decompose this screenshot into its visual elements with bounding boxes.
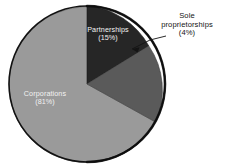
- slice-label-corporations-percent: (81%): [14, 98, 76, 106]
- slice-label-corporations: Corporations (81%): [14, 90, 76, 106]
- slice-label-sole-proprietorships: Sole proprietorships (4%): [152, 12, 222, 38]
- slice-label-sole-percent: (4%): [152, 29, 222, 38]
- slice-label-partnerships-percent: (15%): [78, 34, 138, 42]
- pie-chart: Partnerships (15%) Corporations (81%) So…: [0, 0, 225, 167]
- slice-label-partnerships: Partnerships (15%): [78, 26, 138, 42]
